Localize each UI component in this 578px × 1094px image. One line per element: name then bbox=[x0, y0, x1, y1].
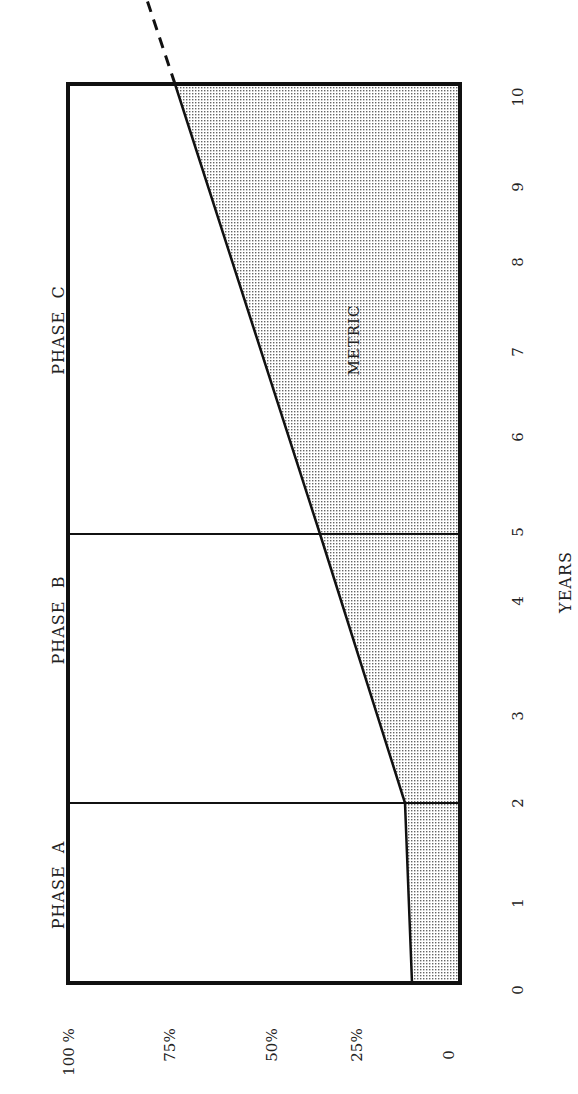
y-tick-75: 75% bbox=[161, 1028, 179, 1061]
phase-b-label: PHASE B bbox=[49, 576, 68, 665]
metric-adoption-chart: PHASE A PHASE B PHASE C METRIC 0 1 2 3 4… bbox=[0, 0, 578, 1094]
x-tick-5: 5 bbox=[509, 527, 527, 537]
x-tick-6: 6 bbox=[509, 432, 527, 442]
x-tick-4: 4 bbox=[509, 596, 527, 606]
x-tick-1: 1 bbox=[509, 898, 527, 908]
metric-projection-dashed bbox=[147, 0, 175, 84]
x-tick-9: 9 bbox=[509, 182, 527, 192]
x-tick-7: 7 bbox=[509, 347, 527, 357]
x-axis-title: YEARS bbox=[556, 551, 575, 614]
x-axis-ticks: 0 1 2 3 4 5 6 7 8 9 10 bbox=[509, 87, 527, 994]
y-tick-100: 100 % bbox=[60, 1028, 78, 1076]
x-tick-10: 10 bbox=[509, 87, 527, 106]
metric-area-label: METRIC bbox=[345, 304, 363, 375]
phase-c-label: PHASE C bbox=[49, 285, 68, 374]
x-tick-0: 0 bbox=[509, 985, 527, 995]
y-tick-25: 25% bbox=[348, 1028, 366, 1061]
y-axis-ticks: 100 % 75% 50% 25% 0 bbox=[60, 1028, 458, 1076]
x-tick-2: 2 bbox=[509, 798, 527, 808]
y-tick-0: 0 bbox=[440, 1050, 458, 1060]
x-tick-3: 3 bbox=[509, 711, 527, 721]
x-tick-8: 8 bbox=[509, 257, 527, 267]
y-tick-50: 50% bbox=[263, 1028, 281, 1061]
phase-a-label: PHASE A bbox=[49, 841, 68, 930]
